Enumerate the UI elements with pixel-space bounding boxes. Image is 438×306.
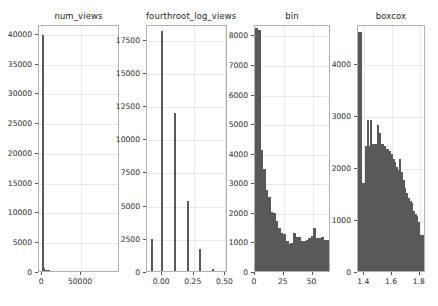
y-tick-label: 35000 bbox=[0, 59, 32, 68]
gridline-horizontal bbox=[147, 173, 226, 174]
y-tick-mark bbox=[143, 106, 146, 107]
histogram-bar bbox=[42, 35, 44, 271]
x-tick-mark bbox=[41, 272, 42, 275]
chart-panel-num_views: num_views0500010000150002000025000300003… bbox=[0, 0, 119, 306]
x-tick-label: 1.6 bbox=[385, 277, 397, 286]
y-tick-mark bbox=[251, 65, 254, 66]
y-tick-mark bbox=[251, 124, 254, 125]
y-tick-label: 20000 bbox=[0, 148, 32, 157]
y-tick-label: 12500 bbox=[104, 102, 140, 111]
y-tick-mark bbox=[143, 73, 146, 74]
y-tick-mark bbox=[35, 64, 38, 65]
gridline-horizontal bbox=[147, 74, 226, 75]
x-tick-label: 1.4 bbox=[357, 277, 369, 286]
y-tick-label: 0 bbox=[0, 268, 32, 277]
histogram-bar bbox=[199, 249, 201, 271]
y-tick-mark bbox=[143, 172, 146, 173]
y-tick-label: 0 bbox=[321, 268, 351, 277]
y-tick-mark bbox=[251, 213, 254, 214]
x-tick-label: 0 bbox=[39, 277, 44, 286]
histogram-bar bbox=[174, 113, 176, 271]
x-tick-label: 0.00 bbox=[153, 277, 170, 286]
y-tick-label: 5000 bbox=[104, 201, 140, 210]
y-tick-mark bbox=[143, 40, 146, 41]
y-tick-mark bbox=[35, 93, 38, 94]
y-tick-label: 5000 bbox=[218, 120, 248, 129]
y-tick-label: 0 bbox=[218, 268, 248, 277]
gridline-horizontal bbox=[147, 41, 226, 42]
y-tick-label: 3000 bbox=[321, 112, 351, 121]
x-tick-mark bbox=[161, 272, 162, 275]
y-tick-label: 2000 bbox=[321, 164, 351, 173]
x-tick-label: 0.25 bbox=[184, 277, 201, 286]
histogram-bar bbox=[212, 269, 214, 271]
y-tick-mark bbox=[35, 123, 38, 124]
y-tick-mark bbox=[354, 116, 357, 117]
panel-title: boxcox bbox=[357, 11, 425, 21]
y-tick-mark bbox=[354, 168, 357, 169]
y-tick-label: 30000 bbox=[0, 89, 32, 98]
y-tick-label: 7500 bbox=[104, 168, 140, 177]
y-tick-label: 25000 bbox=[0, 119, 32, 128]
histogram-bar bbox=[187, 201, 189, 271]
gridline-horizontal bbox=[255, 36, 329, 37]
y-tick-label: 2000 bbox=[218, 208, 248, 217]
y-tick-mark bbox=[35, 212, 38, 213]
gridline-horizontal bbox=[147, 140, 226, 141]
x-tick-label: 0 bbox=[252, 277, 257, 286]
y-tick-mark bbox=[143, 239, 146, 240]
x-tick-mark bbox=[80, 272, 81, 275]
y-tick-label: 15000 bbox=[0, 178, 32, 187]
y-tick-mark bbox=[143, 272, 146, 273]
y-tick-mark bbox=[35, 242, 38, 243]
y-tick-mark bbox=[354, 220, 357, 221]
chart-panel-boxcox: boxcox010002000300040001.41.61.8 bbox=[321, 0, 425, 306]
y-tick-label: 17500 bbox=[104, 35, 140, 44]
gridline-vertical bbox=[194, 26, 195, 271]
histogram-figure-panel-grid: num_views0500010000150002000025000300003… bbox=[0, 0, 438, 306]
x-tick-label: 25 bbox=[278, 277, 288, 286]
x-tick-mark bbox=[283, 272, 284, 275]
panel-title: fourthroot_log_views bbox=[146, 11, 227, 21]
x-tick-mark bbox=[254, 272, 255, 275]
gridline-horizontal bbox=[255, 184, 329, 185]
y-tick-label: 8000 bbox=[218, 31, 248, 40]
y-tick-label: 0 bbox=[104, 268, 140, 277]
histogram-bar bbox=[423, 258, 425, 271]
y-tick-mark bbox=[354, 272, 357, 273]
y-tick-label: 3000 bbox=[218, 179, 248, 188]
y-tick-label: 10000 bbox=[0, 208, 32, 217]
x-tick-label: 1.8 bbox=[413, 277, 425, 286]
y-tick-mark bbox=[251, 154, 254, 155]
y-tick-label: 2500 bbox=[104, 234, 140, 243]
y-tick-label: 15000 bbox=[104, 68, 140, 77]
gridline-horizontal bbox=[255, 66, 329, 67]
gridline-horizontal bbox=[255, 125, 329, 126]
y-tick-label: 5000 bbox=[0, 238, 32, 247]
x-tick-label: 50000 bbox=[68, 277, 92, 286]
y-tick-mark bbox=[354, 64, 357, 65]
gridline-horizontal bbox=[255, 155, 329, 156]
y-tick-mark bbox=[35, 183, 38, 184]
y-tick-label: 10000 bbox=[104, 135, 140, 144]
x-tick-label: 50 bbox=[307, 277, 317, 286]
x-tick-mark bbox=[193, 272, 194, 275]
y-tick-mark bbox=[35, 34, 38, 35]
histogram-bar bbox=[151, 239, 153, 271]
y-tick-mark bbox=[143, 139, 146, 140]
y-tick-mark bbox=[251, 242, 254, 243]
y-tick-label: 1000 bbox=[218, 238, 248, 247]
y-tick-label: 6000 bbox=[218, 90, 248, 99]
y-tick-label: 40000 bbox=[0, 29, 32, 38]
chart-panel-bin: bin0100020003000400050006000700080000255… bbox=[218, 0, 330, 306]
x-tick-mark bbox=[312, 272, 313, 275]
plot-area bbox=[254, 25, 330, 272]
x-tick-mark bbox=[363, 272, 364, 275]
gridline-vertical bbox=[81, 26, 82, 271]
histogram-bar bbox=[161, 31, 163, 271]
gridline-horizontal bbox=[358, 65, 424, 66]
y-tick-label: 4000 bbox=[321, 60, 351, 69]
y-tick-label: 7000 bbox=[218, 60, 248, 69]
y-tick-mark bbox=[35, 153, 38, 154]
y-tick-label: 4000 bbox=[218, 149, 248, 158]
